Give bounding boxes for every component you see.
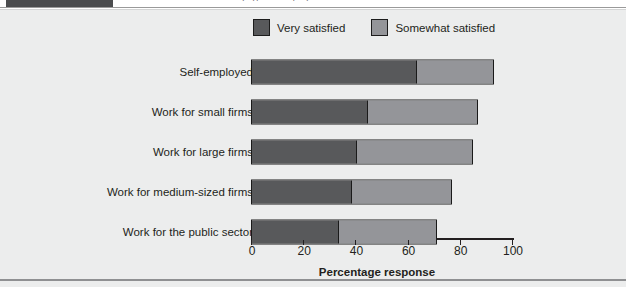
panel-bottom-rule <box>0 279 626 281</box>
bar-segment <box>252 101 367 124</box>
clipped-caption-text: satisfaction by type of employer <box>186 0 318 1</box>
category-label: Self-employed <box>179 66 253 78</box>
chart-row: Work for the public sector <box>0 212 626 252</box>
x-axis-tick-label: 0 <box>249 244 256 258</box>
bar-segment <box>356 141 472 164</box>
stacked-bar <box>251 140 473 165</box>
stacked-bar <box>251 100 478 125</box>
bar-segment <box>367 101 478 124</box>
plot-area: Percentage response Self-employedWork fo… <box>0 10 626 287</box>
bar-segment <box>338 221 436 244</box>
chart-row: Work for large firms <box>0 132 626 172</box>
bar-segment <box>416 61 493 84</box>
stacked-bar <box>251 180 452 205</box>
page-header-strip: satisfaction by type of employer <box>0 0 626 8</box>
header-tab-block <box>6 0 113 7</box>
screenshot-root: satisfaction by type of employer Very sa… <box>0 0 626 296</box>
chart-row: Work for medium-sized firms <box>0 172 626 212</box>
chart-row: Self-employed <box>0 52 626 92</box>
x-axis-tick-label: 20 <box>298 244 311 258</box>
x-axis-tick-label: 80 <box>454 244 467 258</box>
category-label: Work for medium-sized firms <box>107 186 253 198</box>
stacked-bar <box>251 60 494 85</box>
bar-segment <box>351 181 451 204</box>
category-label: Work for small firms <box>152 106 253 118</box>
x-axis-tick-label: 40 <box>350 244 363 258</box>
bar-segment <box>252 221 338 244</box>
bar-segment <box>252 61 416 84</box>
x-axis-tick-label: 60 <box>402 244 415 258</box>
bar-segment <box>252 181 351 204</box>
header-divider <box>0 7 626 8</box>
stacked-bar <box>251 220 437 245</box>
bar-segment <box>252 141 356 164</box>
category-label: Work for large firms <box>153 146 253 158</box>
x-axis-tick-label: 100 <box>503 244 523 258</box>
chart-panel: Very satisfied Somewhat satisfied Percen… <box>0 9 626 287</box>
chart-row: Work for small firms <box>0 92 626 132</box>
x-axis-title: Percentage response <box>251 266 503 278</box>
category-label: Work for the public sector <box>123 226 253 238</box>
